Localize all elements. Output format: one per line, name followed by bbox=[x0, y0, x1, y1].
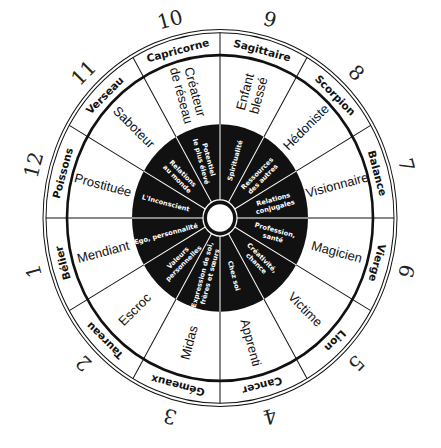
house-number: 6 bbox=[393, 262, 419, 281]
house-number: 1 bbox=[20, 262, 46, 281]
house-number: 10 bbox=[155, 5, 186, 35]
house-number: 8 bbox=[344, 60, 370, 86]
archetype-label: Magicien bbox=[310, 238, 364, 266]
archetype-label: Apprenti bbox=[237, 317, 264, 368]
archetype-label: Saboteur bbox=[110, 103, 158, 151]
zodiac-sign-label: Lion bbox=[322, 328, 348, 354]
house-number: 3 bbox=[161, 403, 180, 429]
house-number: 9 bbox=[261, 6, 280, 32]
archetype-label: Midas bbox=[177, 323, 201, 361]
zodiac-sign-label: Sagittaire bbox=[232, 37, 292, 64]
archetype-label: Enfantblessé bbox=[233, 71, 271, 115]
archetype-label: Escroc bbox=[115, 290, 154, 329]
house-number: 11 bbox=[66, 55, 101, 90]
house-number: 7 bbox=[393, 156, 419, 175]
house-number: 5 bbox=[344, 350, 370, 376]
archetype-label: Prostituée bbox=[73, 170, 133, 200]
house-number: 12 bbox=[19, 149, 49, 180]
house-number: 2 bbox=[71, 350, 97, 376]
hub-center bbox=[207, 204, 233, 232]
zodiac-sign-label: Balance bbox=[366, 149, 390, 197]
archetype-label: Mendiant bbox=[75, 238, 131, 266]
archetype-label: Créateurde réseau bbox=[167, 62, 210, 125]
house-number: 4 bbox=[261, 403, 280, 429]
archetype-label: Hédoniste bbox=[280, 101, 332, 153]
archetype-label: Visionnaire bbox=[304, 169, 370, 200]
archetype-label: Victime bbox=[285, 289, 326, 330]
archetype-wheel: 1BélierMendiantEgo, personnalité2Taureau… bbox=[0, 0, 441, 448]
